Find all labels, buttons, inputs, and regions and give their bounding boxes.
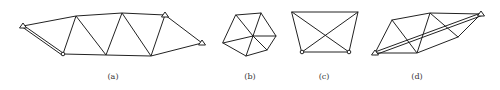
panel-d: (d) (372, 11, 485, 81)
hinge-node-icon (347, 50, 351, 54)
hinge-node-icon (300, 50, 304, 54)
hinge-node-icon (61, 52, 65, 56)
panel-b-label: (b) (244, 72, 255, 81)
panel-b: (b) (223, 13, 276, 81)
panel-c-label: (c) (319, 72, 330, 81)
panel-d-label: (d) (411, 72, 422, 81)
panel-a-label: (a) (107, 72, 118, 81)
truss-diagram: (a) (b) (c) (d) (0, 0, 500, 90)
panel-c: (c) (292, 12, 358, 81)
panel-a: (a) (20, 12, 206, 81)
